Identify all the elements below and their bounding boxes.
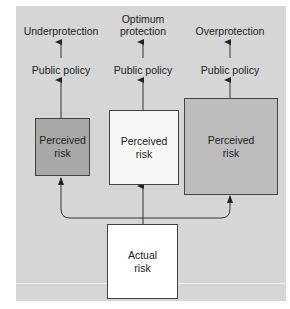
policy-label-middle: Public policy <box>103 64 183 76</box>
outcome-optimum-line2: protection <box>103 25 183 37</box>
policy-label-left: Public policy <box>21 64 101 76</box>
perceived-middle-line1: Perceived <box>121 135 168 148</box>
perceived-risk-box-right: Perceived risk <box>184 98 278 195</box>
actual-risk-line1: Actual <box>128 249 157 262</box>
perceived-left-line2: risk <box>39 147 86 160</box>
outcome-overprotection: Overprotection <box>185 25 275 37</box>
outcome-optimum-line1: Optimum <box>103 13 183 25</box>
actual-risk-box: Actual risk <box>107 224 178 299</box>
perceived-middle-line2: risk <box>121 148 168 161</box>
policy-label-right: Public policy <box>190 64 270 76</box>
perceived-right-line2: risk <box>208 147 255 160</box>
actual-risk-line2: risk <box>128 262 157 275</box>
perceived-right-line1: Perceived <box>208 134 255 147</box>
perceived-risk-box-left: Perceived risk <box>35 118 90 176</box>
outcome-optimum-protection: Optimum protection <box>103 13 183 37</box>
outcome-underprotection: Underprotection <box>14 25 108 37</box>
perceived-risk-box-middle: Perceived risk <box>109 110 179 185</box>
perceived-left-line1: Perceived <box>39 134 86 147</box>
